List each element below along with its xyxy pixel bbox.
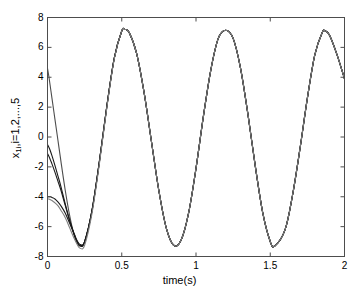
y-tick-label: 6: [2, 42, 44, 52]
axes-frame: [48, 18, 345, 257]
x-axis-label: time(s): [0, 274, 359, 286]
y-tick-label: -8: [2, 252, 44, 262]
y-tick-label: 0: [2, 132, 44, 142]
plot-svg: [0, 0, 359, 301]
y-axis-label-container: x1i,i=1,2,...,5: [2, 0, 24, 256]
y-tick-label: 2: [2, 102, 44, 112]
axes-group: [48, 18, 345, 257]
y-tick-label: 8: [2, 13, 44, 23]
y-tick-label: -2: [2, 162, 44, 172]
series-line-x15: [48, 28, 345, 249]
x-tick-label: 2: [325, 261, 359, 271]
x-tick-label: 1: [176, 261, 216, 271]
x-tick-label: 1.5: [250, 261, 290, 271]
y-axis-label-subscript: 1i: [14, 146, 23, 152]
y-tick-label: -4: [2, 192, 44, 202]
x-tick-label: 0: [28, 261, 68, 271]
y-axis-label-prefix: x: [9, 153, 21, 159]
figure-canvas: x1i,i=1,2,...,5 time(s) 00.511.5286420-2…: [0, 0, 359, 301]
curves-group: [48, 28, 345, 249]
x-tick-label: 0.5: [102, 261, 142, 271]
y-tick-label: -6: [2, 222, 44, 232]
y-tick-label: 4: [2, 72, 44, 82]
